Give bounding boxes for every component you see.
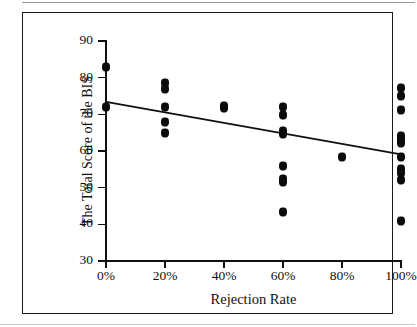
y-tick [98, 114, 106, 116]
y-axis-title-holder: The Total Score of the BIS [61, 41, 73, 261]
trend-line [105, 40, 402, 262]
x-tick-label: 80% [330, 269, 355, 283]
data-point [220, 104, 228, 113]
chart-inner: 30405060708090 0%20%40%60%80%100% The To… [23, 13, 392, 313]
y-tick-label: 30 [80, 253, 94, 267]
x-tick [341, 261, 343, 268]
data-point [279, 130, 287, 139]
x-tick-label: 0% [97, 269, 115, 283]
y-tick [98, 224, 106, 226]
data-point [397, 105, 405, 114]
y-tick [98, 187, 106, 189]
data-point [161, 117, 169, 126]
x-tick [400, 261, 402, 268]
scan-edge-bottom [0, 323, 415, 327]
x-tick [164, 261, 166, 268]
x-tick-label: 20% [153, 269, 178, 283]
data-point [279, 111, 287, 120]
data-point [338, 152, 346, 161]
data-point [397, 138, 405, 147]
data-point [161, 84, 169, 93]
data-point [397, 152, 405, 161]
y-tick [98, 150, 106, 152]
data-point [279, 177, 287, 186]
y-tick [98, 40, 106, 42]
data-point [161, 128, 169, 137]
x-tick-label: 40% [212, 269, 237, 283]
chart-frame-border: 30405060708090 0%20%40%60%80%100% The To… [22, 12, 393, 314]
x-tick [105, 261, 107, 268]
scan-edge-top [0, 0, 415, 3]
data-point [161, 103, 169, 112]
x-tick-label: 100% [385, 269, 417, 283]
data-point [279, 161, 287, 170]
data-point [279, 207, 287, 216]
x-tick [282, 261, 284, 268]
data-point [397, 216, 405, 225]
data-point [397, 92, 405, 101]
x-tick-label: 60% [271, 269, 296, 283]
y-axis-title: The Total Score of the BIS [80, 76, 96, 226]
x-axis-line [105, 260, 402, 262]
x-tick [223, 261, 225, 268]
x-axis-title: Rejection Rate [106, 291, 401, 308]
data-point [397, 175, 405, 184]
data-point [102, 62, 110, 71]
data-point [102, 103, 110, 112]
y-tick-label: 90 [80, 33, 94, 47]
y-tick [98, 77, 106, 79]
